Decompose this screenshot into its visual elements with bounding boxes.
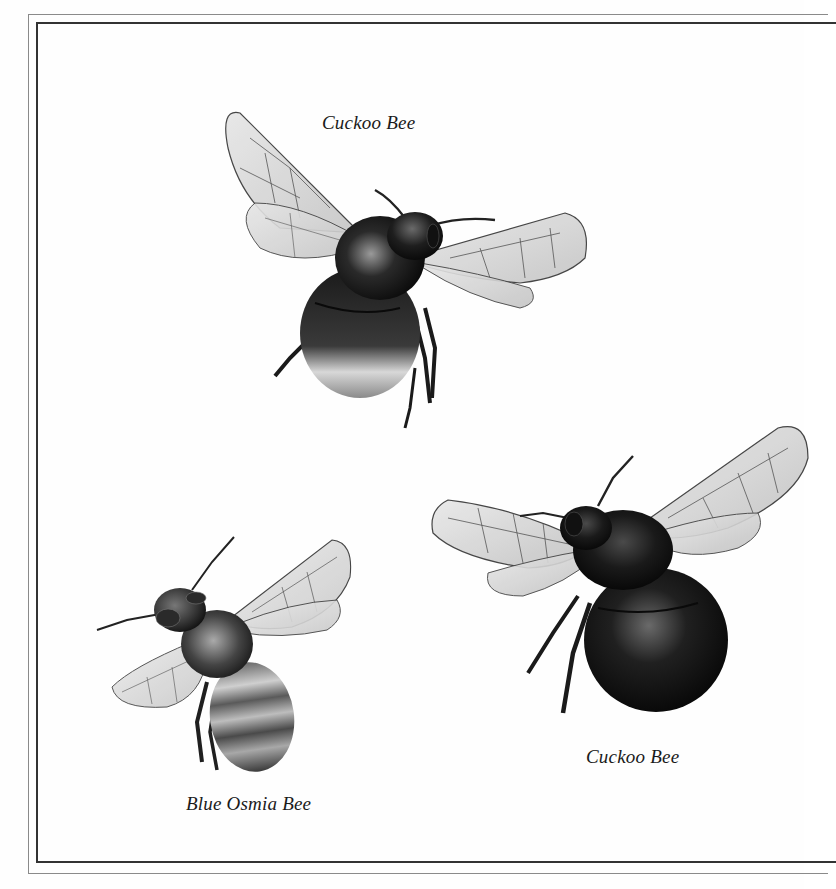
cuckoo-bee-top-icon — [220, 108, 600, 438]
blue-osmia-bee-icon — [92, 532, 362, 782]
caption-cuckoo-bee-bottom: Cuckoo Bee — [586, 746, 679, 768]
caption-blue-osmia-bee: Blue Osmia Bee — [186, 793, 311, 815]
cuckoo-bee-bottom-icon — [428, 418, 812, 723]
caption-cuckoo-bee-top: Cuckoo Bee — [322, 112, 415, 134]
